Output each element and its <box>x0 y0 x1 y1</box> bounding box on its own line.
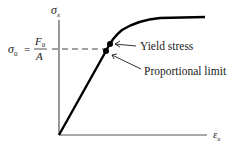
fraction-denominator: A <box>35 50 43 62</box>
stress-strain-diagram: σx εx σ0 = F0 A Yield stress Proportiona… <box>0 0 238 151</box>
yield-stress-arrow <box>115 41 136 47</box>
proportional-limit-arrow <box>112 54 141 69</box>
sigma0-symbol: σ0 <box>8 42 18 58</box>
yield-stress-point <box>107 41 113 47</box>
equals-sign: = <box>24 43 30 55</box>
yield-stress-label: Yield stress <box>140 40 194 52</box>
x-axis-label: εx <box>213 128 221 143</box>
sigma0-formula: σ0 = F0 A <box>8 35 47 62</box>
y-axis-label: σx <box>51 3 61 19</box>
proportional-limit-point <box>103 48 109 54</box>
proportional-limit-label: Proportional limit <box>144 65 227 78</box>
fraction-numerator: F0 <box>34 35 46 49</box>
